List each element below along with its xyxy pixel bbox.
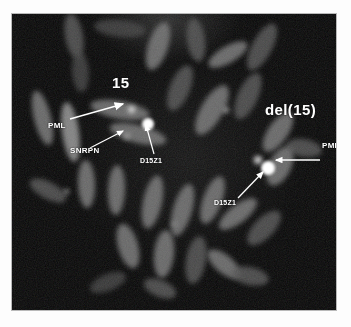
fish-signal-pml-left [128,106,135,113]
fish-signal-d15z1-right [261,161,275,175]
chromosome [230,263,271,289]
label-d15z1-right: D15Z1 [214,199,236,206]
chromosome [89,96,151,124]
fish-signal-snrpn-left [124,133,130,139]
fish-signal-pml-right [254,156,262,164]
label-snrpn: SNRPN [70,147,100,155]
chromosome [166,181,199,238]
label-pml-left: PML [48,122,66,130]
chromosome [112,221,144,271]
arrow-d15z1-right [238,172,263,198]
chromosome [152,229,177,279]
fish-signal-d15z1-left [142,118,154,130]
label-pml-right: PML [322,142,336,150]
label-d15z1-left: D15Z1 [140,157,162,164]
chromosome [184,17,208,63]
fish-signal-background [172,222,176,226]
chromosome [182,235,210,286]
chromosome [108,118,169,149]
chromosome [138,174,168,231]
chromosome [87,268,129,298]
micrograph-plate: 15 del(15) PML SNRPN D15Z1 PML D15Z1 [12,14,336,310]
chromosome [93,17,146,39]
fish-signal-background [64,189,69,194]
chromosome [141,274,179,302]
chromosome [107,165,126,216]
label-chromosome-15: 15 [112,75,130,90]
chromosome [205,36,252,73]
fish-micrograph-figure: 15 del(15) PML SNRPN D15Z1 PML D15Z1 [0,0,351,327]
chromosome [71,51,91,92]
fish-signal-background [223,107,229,113]
chromosome [27,89,57,147]
chromosome [77,160,96,209]
chromosome [141,19,175,73]
chromosome [229,69,268,123]
chromosome [162,62,199,114]
label-del-15: del(15) [265,102,316,117]
